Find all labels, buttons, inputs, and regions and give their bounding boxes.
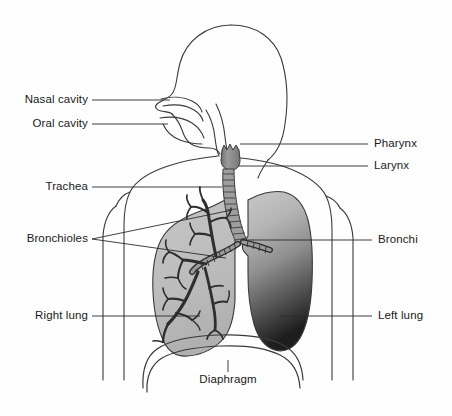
left-lung (242, 191, 312, 350)
label-diaphragm: Diaphragm (199, 374, 256, 386)
label-left-lung: Left lung (378, 310, 423, 322)
respiratory-system-diagram: Nasal cavity Oral cavity Trachea Bronchi… (0, 0, 452, 416)
label-bronchi: Bronchi (378, 234, 418, 246)
label-oral-cavity: Oral cavity (0, 118, 88, 130)
label-larynx: Larynx (374, 160, 409, 172)
larynx (221, 144, 240, 170)
anatomy-illustration (0, 0, 452, 416)
label-right-lung: Right lung (0, 310, 88, 322)
label-nasal-cavity: Nasal cavity (0, 94, 88, 106)
label-pharynx: Pharynx (374, 138, 417, 150)
label-bronchioles: Bronchioles (0, 233, 88, 245)
label-trachea: Trachea (0, 181, 88, 193)
